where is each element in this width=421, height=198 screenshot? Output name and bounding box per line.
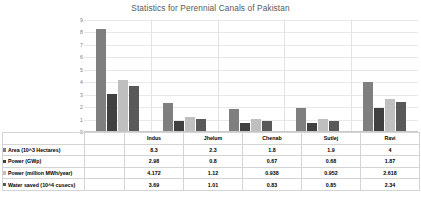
bar <box>107 94 117 131</box>
bar <box>296 108 306 131</box>
bar <box>262 121 272 131</box>
legend-swatch-icon <box>3 183 6 186</box>
legend-label: Power (million MWh/year) <box>8 170 72 176</box>
data-cell-sutlej: 0.85 <box>302 179 361 191</box>
bar <box>318 119 328 131</box>
y-axis-tick-8: 8 <box>80 30 83 35</box>
y-axis-tick-6: 6 <box>80 55 83 60</box>
y-axis-tick-1: 1 <box>80 117 83 122</box>
legend-entry-2[interactable]: Power (million MWh/year) <box>3 167 85 179</box>
bar <box>329 121 339 131</box>
y-axis-tick-7: 7 <box>80 42 83 47</box>
bar-group-sutlej <box>284 20 351 131</box>
bar-group-ravi <box>351 20 418 131</box>
legend-swatch-icon <box>3 160 6 163</box>
y-axis: 9876543210 <box>73 20 83 132</box>
column-header-ravi: Ravi <box>361 133 420 145</box>
bar <box>363 82 373 131</box>
data-cell-indus: 4.172 <box>125 167 184 179</box>
column-header-chenab: Chenab <box>243 133 302 145</box>
y-axis-tick-3: 3 <box>80 92 83 97</box>
legend-swatch-icon <box>3 148 6 151</box>
column-header-indus: Indus <box>125 133 184 145</box>
data-table-body: IndusJhelumChenabSutlejRaviArea (10^3 He… <box>3 133 420 191</box>
bar <box>251 119 261 131</box>
data-cell-sutlej: 0.952 <box>302 167 361 179</box>
table-spacer-cell <box>3 133 85 145</box>
bar <box>174 121 184 131</box>
bar <box>240 123 250 131</box>
bar-group-chenab <box>218 20 285 131</box>
bar <box>96 29 106 131</box>
bar-group-indus <box>84 20 151 131</box>
table-row: Power (million MWh/year)4.1721.120.9380.… <box>3 167 420 179</box>
data-cell-ravi: 1.87 <box>361 156 420 168</box>
legend-label: Water saved (10^4 cusecs) <box>8 182 75 188</box>
legend-entry-0[interactable]: Area (10^3 Hectares) <box>3 144 85 156</box>
y-axis-tick-5: 5 <box>80 67 83 72</box>
data-cell-indus: 8.3 <box>125 144 184 156</box>
chart-title: Statistics for Perennial Canals of Pakis… <box>0 3 421 13</box>
data-cell-sutlej: 1.9 <box>302 144 361 156</box>
data-cell-ravi: 4 <box>361 144 420 156</box>
bar-group-jhelum <box>151 20 218 131</box>
table-row: Water saved (10^4 cusecs)3.691.010.830.8… <box>3 179 420 191</box>
bar <box>118 80 128 131</box>
legend-label: Power (GWp) <box>8 158 41 164</box>
legend-entry-1[interactable]: Power (GWp) <box>3 156 85 168</box>
data-cell-jhelum: 1.12 <box>184 167 243 179</box>
bar-groups <box>84 20 418 131</box>
table-header-row: IndusJhelumChenabSutlejRavi <box>3 133 420 145</box>
data-cell-chenab: 0.83 <box>243 179 302 191</box>
data-table: IndusJhelumChenabSutlejRaviArea (10^3 He… <box>2 132 420 191</box>
bar <box>129 86 139 132</box>
data-cell-jhelum: 2.3 <box>184 144 243 156</box>
bar <box>385 99 395 131</box>
table-spacer-cell <box>85 144 125 156</box>
legend-swatch-icon <box>3 171 6 174</box>
legend-label: Area (10^3 Hectares) <box>8 147 61 153</box>
bar <box>374 108 384 131</box>
table-spacer-cell <box>85 133 125 145</box>
data-cell-jhelum: 1.01 <box>184 179 243 191</box>
data-cell-indus: 2.98 <box>125 156 184 168</box>
data-cell-indus: 3.69 <box>125 179 184 191</box>
bar <box>229 109 239 131</box>
table-row: Power (GWp)2.980.80.670.681.87 <box>3 156 420 168</box>
data-cell-jhelum: 0.8 <box>184 156 243 168</box>
column-header-jhelum: Jhelum <box>184 133 243 145</box>
data-cell-ravi: 2.618 <box>361 167 420 179</box>
data-cell-chenab: 1.8 <box>243 144 302 156</box>
column-header-sutlej: Sutlej <box>302 133 361 145</box>
data-cell-ravi: 2.34 <box>361 179 420 191</box>
table-spacer-cell <box>85 167 125 179</box>
bar <box>196 119 206 131</box>
data-cell-chenab: 0.67 <box>243 156 302 168</box>
table-row: Area (10^3 Hectares)8.32.31.81.94 <box>3 144 420 156</box>
bar <box>307 123 317 131</box>
data-cell-sutlej: 0.68 <box>302 156 361 168</box>
bar <box>163 103 173 131</box>
y-axis-tick-4: 4 <box>80 80 83 85</box>
bar <box>396 102 406 131</box>
legend-entry-3[interactable]: Water saved (10^4 cusecs) <box>3 179 85 191</box>
plot-area: 9876543210 <box>84 20 418 132</box>
chart-container: Statistics for Perennial Canals of Pakis… <box>0 0 421 198</box>
bar <box>185 117 195 131</box>
data-cell-chenab: 0.938 <box>243 167 302 179</box>
table-spacer-cell <box>85 156 125 168</box>
y-axis-tick-2: 2 <box>80 105 83 110</box>
y-axis-tick-9: 9 <box>80 18 83 23</box>
table-spacer-cell <box>85 179 125 191</box>
